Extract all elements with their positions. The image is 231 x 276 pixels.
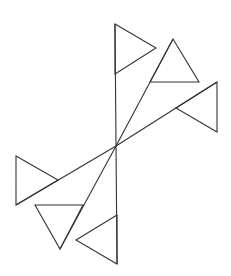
triangle-top	[115, 24, 156, 74]
triangle-upper-right	[150, 39, 199, 82]
triangle-lower-left	[35, 205, 83, 249]
triangle-bottom	[76, 215, 117, 264]
triangle-right	[176, 82, 217, 132]
triangle-figure	[0, 0, 231, 276]
diagram-canvas	[0, 0, 231, 276]
triangle-left	[16, 156, 58, 205]
